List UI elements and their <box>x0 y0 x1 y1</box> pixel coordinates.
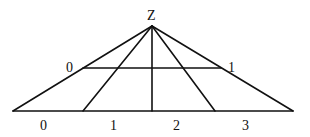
perspective-diagram: Z 0 1 0 1 2 3 <box>0 0 310 137</box>
upper-label-1: 1 <box>228 60 235 75</box>
diagram-svg: Z 0 1 0 1 2 3 <box>0 0 310 137</box>
upper-label-0: 0 <box>66 60 73 75</box>
base-label-0: 0 <box>40 118 47 133</box>
base-label-1: 1 <box>110 118 117 133</box>
base-label-3: 3 <box>242 118 249 133</box>
base-label-2: 2 <box>173 118 180 133</box>
apex-label: Z <box>147 8 156 23</box>
